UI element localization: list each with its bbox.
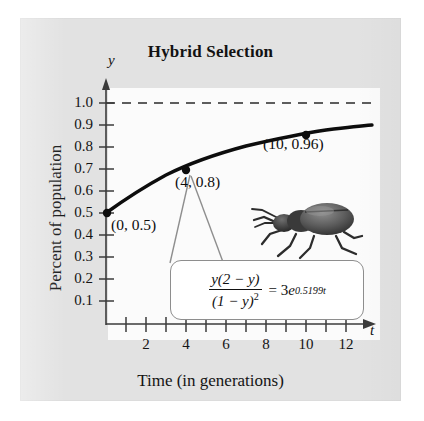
x-tick-label-6: 6 [214, 336, 238, 353]
y-tick-label-0.7: 0.7 [53, 160, 93, 177]
chart-panel: Hybrid Selection Percent of population T… [20, 18, 401, 401]
x-tick-label-2: 2 [134, 336, 158, 353]
equation-exponent: 0.5199t [295, 285, 326, 296]
y-tick-label-0.2: 0.2 [53, 270, 93, 287]
equation-denominator: (1 − y)2 [209, 289, 262, 310]
equation-num-y: y [211, 271, 218, 287]
equation-numerator: y(2 − y) [208, 271, 262, 289]
y-tick-label-0.5: 0.5 [53, 204, 93, 221]
equation-num-rest: (2 − y) [218, 271, 260, 287]
y-tick-label-0.6: 0.6 [53, 182, 93, 199]
figure-root: Hybrid Selection Percent of population T… [0, 0, 424, 421]
y-axis [102, 78, 110, 325]
equation-den-exponent: 2 [254, 291, 259, 302]
x-tick-label-8: 8 [254, 336, 278, 353]
equation-fraction: y(2 − y) (1 − y)2 [208, 271, 262, 310]
point-label-4: (4, 0.8) [175, 173, 220, 191]
beetle-icon [248, 190, 366, 262]
equation-callout-box: y(2 − y) (1 − y)2 = 3e0.5199t [170, 260, 364, 320]
equation-e: e [288, 282, 295, 299]
y-tick-label-0.1: 0.1 [53, 292, 93, 309]
data-point-0 [103, 209, 111, 217]
y-tick-label-0.3: 0.3 [53, 248, 93, 265]
x-tick-label-10: 10 [294, 336, 318, 353]
y-tick-label-0.4: 0.4 [53, 226, 93, 243]
point-label-10: (10, 0.96) [263, 135, 324, 153]
y-tick-label-1.0: 1.0 [53, 94, 93, 111]
y-tick-label-0.9: 0.9 [53, 116, 93, 133]
equation-content: y(2 − y) (1 − y)2 = 3e0.5199t [171, 261, 363, 319]
equation-equals: = 3 [269, 282, 289, 299]
x-tick-label-12: 12 [334, 336, 358, 353]
y-tick-label-0.8: 0.8 [53, 138, 93, 155]
equation-den-base: (1 − y) [212, 293, 254, 309]
point-label-0: (0, 0.5) [111, 216, 156, 234]
x-tick-label-4: 4 [174, 336, 198, 353]
